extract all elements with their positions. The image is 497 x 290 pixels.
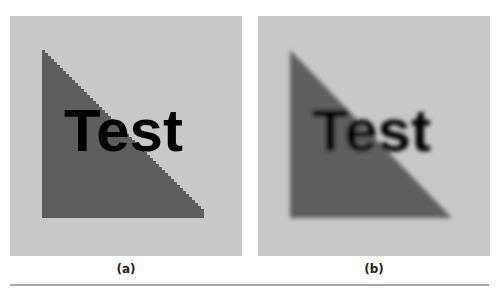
caption-a: (a) <box>10 262 242 276</box>
caption-b: (b) <box>258 262 490 276</box>
test-label: Test <box>64 97 183 164</box>
triangle-text-image-aliased: Test <box>10 16 242 256</box>
divider-line <box>10 284 489 286</box>
panel-aliased: Test <box>10 16 242 256</box>
triangle-text-image-blurred: Test <box>258 16 490 256</box>
test-label: Test <box>312 97 431 164</box>
panel-blurred: Test <box>258 16 490 256</box>
